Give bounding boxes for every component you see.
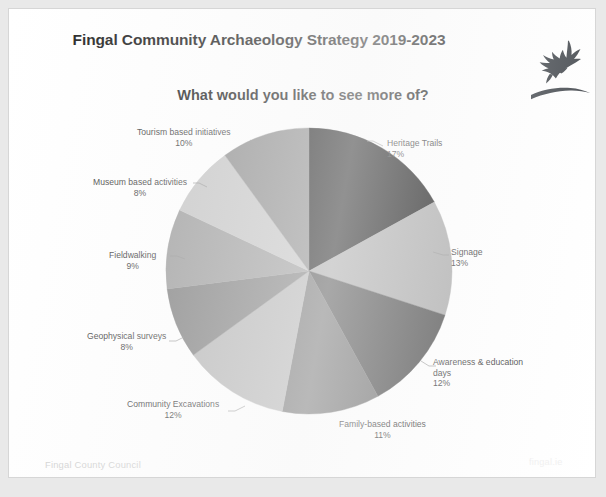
pie-slice-label-value: 12% <box>433 378 523 389</box>
pie-slice-label-value: 10% <box>137 138 231 149</box>
pie-slice-label-text: Geophysical surveys <box>87 331 166 341</box>
pie-slice-label-text: Signage <box>451 247 483 257</box>
pie-slices-group <box>165 127 453 415</box>
pie-slice-label-value: 13% <box>451 258 483 269</box>
pie-slice-label: Museum based activities8% <box>93 177 187 198</box>
pie-slice-label-text: Heritage Trails <box>387 138 442 148</box>
pie-slice-label-text: Fieldwalking <box>109 250 156 260</box>
pie-slice-label: Community Excavations12% <box>127 399 219 420</box>
pie-chart: Heritage Trails17%Signage13%Awareness & … <box>9 9 596 478</box>
pie-slice-label: Awareness & education days12% <box>433 357 523 389</box>
pie-slice-label-text: Community Excavations <box>127 399 219 409</box>
pie-slice-label: Fieldwalking9% <box>109 250 156 271</box>
document-page: Fingal Community Archaeology Strategy 20… <box>8 8 596 478</box>
pie-slice-label-value: 12% <box>127 410 219 421</box>
pie-slice-label-value: 17% <box>387 149 442 160</box>
footer-council-name: Fingal County Council <box>45 459 141 470</box>
pie-slice-label: Tourism based initiatives10% <box>137 127 231 148</box>
pie-slice-label: Family-based activities11% <box>339 419 426 440</box>
pie-slice-label-text: Tourism based initiatives <box>137 127 231 137</box>
pie-slice-label: Signage13% <box>451 247 483 268</box>
pie-slice-label-text: Family-based activities <box>339 419 426 429</box>
footer-website: fingal.ie <box>529 457 562 467</box>
pie-slice-label-value: 9% <box>109 261 156 272</box>
pie-slice-label: Geophysical surveys8% <box>87 331 166 352</box>
pie-slice-label: Heritage Trails17% <box>387 138 442 159</box>
pie-slice-label-text: Museum based activities <box>93 177 187 187</box>
pie-slice-label-text: Awareness & education days <box>433 357 523 378</box>
pie-slice-label-value: 8% <box>93 188 187 199</box>
pie-slice-label-value: 11% <box>339 430 426 441</box>
pie-slice-label-value: 8% <box>87 342 166 353</box>
